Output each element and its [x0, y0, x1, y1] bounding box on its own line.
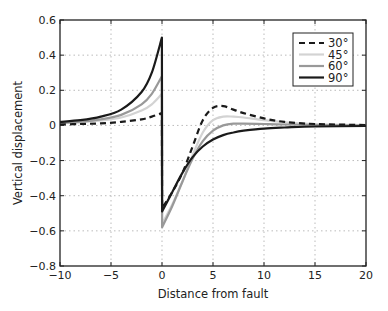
legend-label: 90° [328, 71, 348, 85]
line-chart: −10−505101520−0.8−0.6−0.4−0.200.20.40.6 … [0, 0, 388, 311]
y-tick-label: −0.6 [29, 225, 56, 238]
x-tick-label: 10 [257, 269, 271, 282]
x-tick-label: 0 [159, 269, 166, 282]
y-tick-label: 0.6 [39, 14, 57, 27]
x-tick-label: 15 [308, 269, 322, 282]
y-tick-label: −0.4 [29, 190, 56, 203]
y-tick-label: 0 [49, 119, 56, 132]
x-tick-label: 5 [210, 269, 217, 282]
y-axis-label: Vertical displacement [11, 80, 25, 205]
x-tick-label: 20 [359, 269, 373, 282]
x-tick-label: −5 [103, 269, 119, 282]
x-axis-label: Distance from fault [158, 287, 269, 301]
y-tick-label: 0.2 [39, 84, 57, 97]
legend: 30°45°60°90° [293, 33, 353, 86]
y-tick-label: −0.8 [29, 260, 56, 273]
y-tick-label: 0.4 [39, 49, 57, 62]
series-line-45deg [60, 94, 366, 224]
y-tick-label: −0.2 [29, 155, 56, 168]
